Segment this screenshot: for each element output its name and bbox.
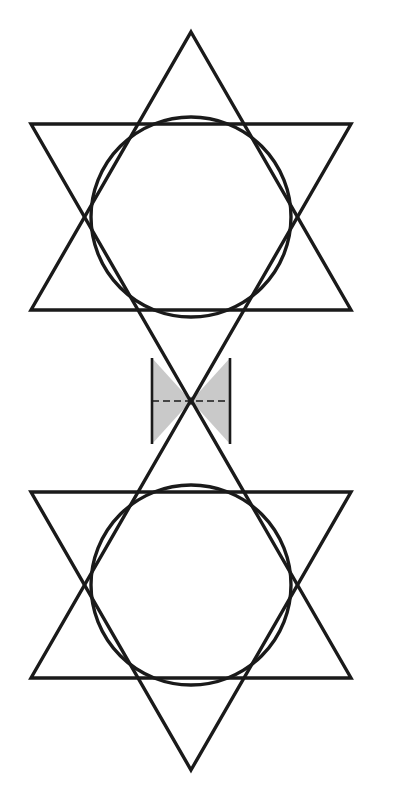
figure-canvas [0, 0, 396, 800]
geometric-figure-svg [0, 0, 396, 800]
